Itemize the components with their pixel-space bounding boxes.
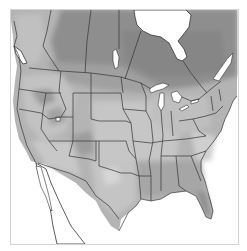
- north-america-map: [11, 10, 238, 244]
- map-frame: [10, 9, 239, 245]
